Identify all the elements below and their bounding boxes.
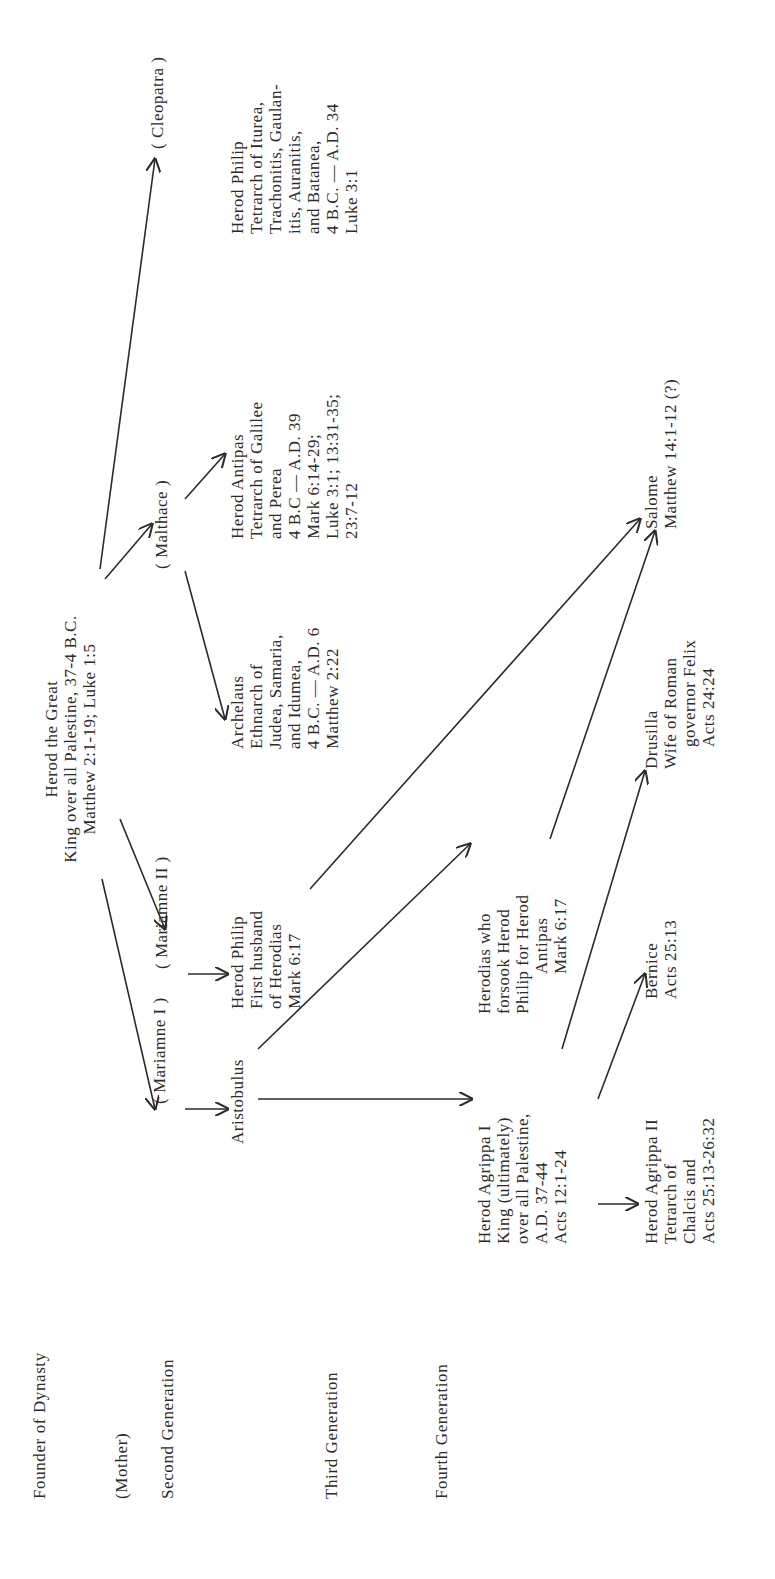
arrow-agrippa-i-to-bernice — [598, 974, 645, 1099]
herodian-dynasty-diagram: Founder of Dynasty (Mother) Second Gener… — [0, 0, 775, 1579]
arrow-herod-to-cleopatra — [100, 159, 155, 569]
arrow-malthace-to-antipas — [185, 454, 225, 499]
arrow-herod-to-mariamne-ii — [120, 819, 165, 929]
arrow-aristobulus-to-herodias — [258, 844, 470, 1049]
arrow-herod-to-mariamne-i — [102, 879, 155, 1109]
arrow-herod-to-malthace — [105, 524, 152, 579]
arrow-malthace-to-archelaus — [185, 571, 225, 719]
relationship-arrows — [0, 0, 775, 1579]
arrow-herod-philip-to-salome — [310, 519, 640, 889]
